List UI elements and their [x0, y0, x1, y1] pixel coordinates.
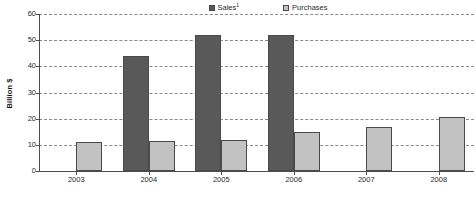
legend-label-sales-superscript: 1	[236, 2, 239, 8]
y-axis-tick-label: 60	[28, 10, 36, 18]
y-axis-tick-label: 30	[28, 89, 36, 97]
legend-label-sales-text: Sales	[218, 3, 237, 12]
bar-purchases	[149, 141, 175, 171]
plot-canvas	[39, 14, 474, 172]
chart-legend: Sales1 Purchases	[0, 1, 476, 15]
bar-group	[113, 14, 186, 171]
bar-sales	[268, 35, 294, 171]
y-axis-tick-label: 50	[28, 36, 36, 44]
legend-label-purchases: Purchases	[292, 4, 327, 12]
plot-area: Billion $ 0102030405060 2003200420052006…	[0, 14, 476, 190]
legend-swatch-purchases-icon	[283, 5, 289, 11]
bar-purchases	[294, 132, 320, 171]
bar-group	[403, 14, 476, 171]
x-axis-tick-label: 2004	[140, 176, 157, 184]
bar-group	[185, 14, 258, 171]
x-axis-tick-label: 2003	[68, 176, 85, 184]
bars-layer	[40, 14, 474, 172]
y-axis-title-text: Billion $	[5, 78, 14, 108]
bar-purchases	[221, 140, 247, 171]
x-axis-tick-label: 2008	[430, 176, 447, 184]
bar-group	[40, 14, 113, 171]
x-axis-tick-label: 2005	[213, 176, 230, 184]
y-axis-tick-label: 40	[28, 63, 36, 71]
bar-group	[258, 14, 331, 171]
x-axis-tick-label: 2007	[358, 176, 375, 184]
bar-sales	[123, 56, 149, 171]
bar-sales	[195, 35, 221, 171]
y-axis-title: Billion $	[2, 14, 16, 172]
bar-purchases	[366, 127, 392, 171]
legend-label-sales: Sales1	[218, 4, 240, 12]
legend-swatch-sales-icon	[209, 5, 215, 11]
y-axis-tick-label: 20	[28, 115, 36, 123]
legend-item-sales: Sales1	[209, 4, 240, 12]
bar-purchases	[76, 142, 102, 171]
bar-group	[330, 14, 403, 171]
x-axis-tick-labels: 200320042005200620072008	[40, 174, 474, 190]
x-axis-tick-label: 2006	[285, 176, 302, 184]
y-axis-tick-labels: 0102030405060	[16, 14, 36, 172]
bar-chart: Sales1 Purchases Billion $ 0102030405060…	[0, 0, 476, 207]
y-axis-tick-label: 10	[28, 141, 36, 149]
legend-item-purchases: Purchases	[283, 4, 327, 12]
bar-purchases	[439, 117, 465, 171]
